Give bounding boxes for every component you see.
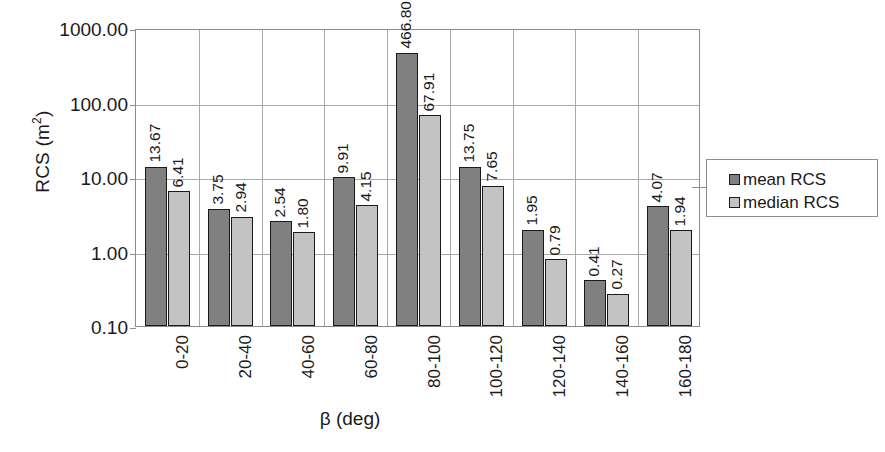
bar-value-label: 13.67 [146,124,162,163]
y-axis-tick-label: 100.00 [32,94,128,113]
bar-mean-20-40 [208,209,230,326]
bar-value-label: 1.80 [295,198,311,228]
bar-median-40-60 [293,232,315,326]
y-axis-tick-label: 10.00 [32,169,128,188]
bar-value-label: 9.91 [335,143,351,173]
y-axis-tickmark [130,30,136,31]
x-axis-title: β (deg) [0,408,700,430]
bar-mean-40-60 [270,221,292,326]
bar-value-label: 1.95 [523,196,539,226]
bar-value-label: 2.54 [272,187,288,217]
vertical-gridline [450,30,451,326]
vertical-gridline [638,30,639,326]
bar-value-label: 2.94 [232,182,248,212]
bar-mean-0-20 [145,167,167,326]
legend-item-label: median RCS [743,194,839,211]
vertical-gridline [575,30,576,326]
vertical-gridline [513,30,514,326]
bar-median-140-160 [607,294,629,326]
rcs-bar-chart: RCS (m2) 1000.00100.0010.001.000.10 13.6… [0,0,885,452]
bar-median-60-80 [356,205,378,326]
y-axis-tick-label: 1.00 [32,243,128,262]
bar-mean-80-100 [396,53,418,326]
plot-area: 13.676.413.752.942.541.809.914.15466.806… [135,29,700,327]
x-axis-tick-label: 0-20 [174,335,191,369]
bar-mean-140-160 [584,280,606,326]
bar-median-20-40 [231,217,253,326]
bar-value-label: 13.75 [460,124,476,163]
vertical-gridline [387,30,388,326]
bar-mean-160-180 [647,206,669,326]
bar-mean-60-80 [333,177,355,326]
bar-value-label: 1.94 [672,196,688,226]
vertical-gridline [324,30,325,326]
bar-value-label: 3.75 [209,175,225,205]
bar-median-80-100 [419,115,441,326]
x-axis-tick-label: 20-40 [237,335,254,378]
y-axis-ticks: 1000.00100.0010.001.000.10 [28,0,128,452]
bar-median-160-180 [670,230,692,326]
legend-item-label: mean RCS [743,171,826,188]
vertical-gridline [199,30,200,326]
bar-value-label: 4.07 [649,172,665,202]
x-axis-tick-label: 60-80 [363,335,380,378]
x-axis-tick-label: 80-100 [426,335,443,388]
legend-swatch-icon [729,197,740,208]
legend-swatch-icon [729,174,740,185]
x-axis-tick-label: 40-60 [300,335,317,378]
bar-median-0-20 [168,191,190,326]
x-axis-tick-label: 140-160 [614,335,631,397]
bar-mean-100-120 [459,167,481,326]
bar-value-label: 0.41 [586,246,602,276]
bar-median-100-120 [482,186,504,326]
bar-median-120-140 [545,259,567,326]
legend-item-median[interactable]: median RCS [729,194,839,211]
bar-mean-120-140 [522,230,544,326]
x-axis-ticks: 0-2020-4040-6060-8080-100100-120120-1401… [135,327,700,417]
y-axis-tickmark [130,105,136,106]
legend-item-mean[interactable]: mean RCS [729,171,826,188]
bar-value-label: 4.15 [358,171,374,201]
y-axis-tick-label: 0.10 [32,318,128,337]
x-axis-tick-label: 160-180 [677,335,694,397]
chart-legend: mean RCSmedian RCS [706,159,878,217]
y-axis-tickmark [130,179,136,180]
bar-value-label: 0.79 [546,225,562,255]
bar-value-label: 466.80 [398,1,414,48]
bar-value-label: 67.91 [421,72,437,111]
y-axis-tick-label: 1000.00 [32,20,128,39]
bar-value-label: 6.41 [169,157,185,187]
vertical-gridline [262,30,263,326]
bar-value-label: 7.65 [483,152,499,182]
x-axis-tick-label: 120-140 [551,335,568,397]
bar-value-label: 0.27 [609,260,625,290]
legend-connector-line [692,187,706,188]
x-axis-tick-label: 100-120 [488,335,505,397]
y-axis-tickmark [130,254,136,255]
